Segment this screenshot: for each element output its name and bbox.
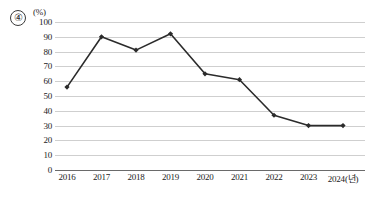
y-axis-tick-label: 50 <box>12 91 52 101</box>
y-axis-tick-label: 20 <box>12 135 52 145</box>
x-axis-tick-label: 2016 <box>58 172 75 182</box>
x-axis-tick-label: 2018 <box>127 172 144 182</box>
x-axis-tick-labels: 201620172018201920202021202220232024(년) <box>55 172 365 190</box>
data-point-marker <box>340 123 345 128</box>
y-axis-tick-label: 80 <box>12 47 52 57</box>
y-axis-tick-label: 40 <box>12 106 52 116</box>
y-axis-unit-label: (%) <box>33 7 46 17</box>
y-axis-tick-label: 30 <box>12 121 52 131</box>
plot-area <box>55 22 365 170</box>
x-axis-tick-label: 2024(년) <box>328 172 359 185</box>
x-axis-tick-label: 2019 <box>162 172 179 182</box>
x-axis-tick-label: 2022 <box>265 172 282 182</box>
y-axis-tick-label: 0 <box>12 165 52 175</box>
line-chart-figure: ④ (%) 1009080706050403020100 20162017201… <box>0 0 374 197</box>
data-point-marker <box>306 123 311 128</box>
y-axis-tick-label: 60 <box>12 76 52 86</box>
series-polyline <box>67 34 343 126</box>
x-axis-tick-label: 2017 <box>93 172 110 182</box>
y-axis-tick-labels: 1009080706050403020100 <box>8 22 52 170</box>
x-axis-tick-label: 2023 <box>300 172 317 182</box>
data-series-line <box>55 22 365 170</box>
y-axis-tick-label: 10 <box>12 150 52 160</box>
x-axis-tick-label: 2020 <box>196 172 213 182</box>
y-axis-tick-label: 100 <box>12 17 52 27</box>
x-axis-tick-label: 2021 <box>231 172 248 182</box>
data-point-marker <box>133 48 138 53</box>
y-axis-tick-label: 90 <box>12 32 52 42</box>
y-axis-tick-label: 70 <box>12 61 52 71</box>
x-axis-line <box>55 170 365 171</box>
